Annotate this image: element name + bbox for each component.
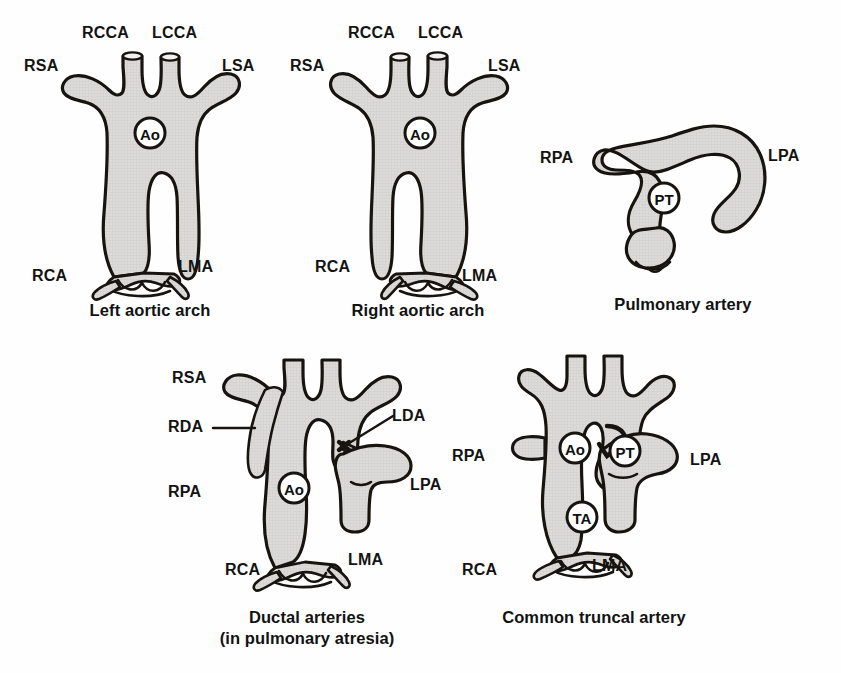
figure-4-center-tag: Ao bbox=[279, 473, 309, 503]
caption-pulmonary-artery: Pulmonary artery bbox=[578, 294, 788, 315]
tag-label-ao: Ao bbox=[565, 441, 585, 458]
label-lpa-fig4: LPA bbox=[410, 477, 441, 493]
tag-label-ta: TA bbox=[573, 510, 592, 527]
label-lcca-fig2: LCCA bbox=[418, 25, 463, 41]
figure-5-tag-pt: PT bbox=[610, 436, 640, 466]
caption-common-truncal-artery: Common truncal artery bbox=[460, 607, 728, 628]
label-rpa-fig5: RPA bbox=[452, 448, 485, 464]
tag-label-ao: Ao bbox=[410, 126, 430, 143]
label-lma-fig4: LMA bbox=[348, 552, 383, 568]
lda-marker bbox=[339, 442, 349, 450]
label-lma-fig1: LMA bbox=[178, 259, 213, 275]
caption-line-2: (in pulmonary atresia) bbox=[182, 628, 432, 649]
tag-label-pt: PT bbox=[654, 191, 673, 208]
label-rsa-fig1: RSA bbox=[24, 58, 58, 74]
label-lma-fig2: LMA bbox=[462, 268, 497, 284]
label-rpa-fig4: RPA bbox=[168, 484, 201, 500]
label-lsa-fig1: LSA bbox=[222, 58, 255, 74]
figure-common-truncal-artery: Ao PT TA bbox=[495, 352, 710, 592]
label-rsa-fig4: RSA bbox=[172, 370, 206, 386]
label-rpa-fig3: RPA bbox=[540, 150, 573, 166]
label-lpa-fig3: LPA bbox=[768, 148, 799, 164]
caption-ductal-arteries: Ductal arteries (in pulmonary atresia) bbox=[182, 607, 432, 650]
label-lma-fig5: LMA bbox=[592, 558, 627, 574]
figure-1-center-tag: Ao bbox=[135, 118, 165, 148]
diagram-plate: Ao RCCA LCCA RSA LSA RCA LMA Left aortic… bbox=[0, 0, 841, 673]
tag-label-ao: Ao bbox=[140, 126, 160, 143]
label-rca-fig2: RCA bbox=[315, 259, 350, 275]
figure-left-aortic-arch: Ao bbox=[52, 45, 252, 290]
tag-label-pt: PT bbox=[615, 444, 634, 461]
figure-2-center-tag: Ao bbox=[405, 118, 435, 148]
label-rsa-fig2: RSA bbox=[290, 58, 324, 74]
figure-5-tag-ta: TA bbox=[567, 502, 597, 532]
label-lsa-fig2: LSA bbox=[488, 58, 521, 74]
figure-3-center-tag: PT bbox=[649, 183, 679, 213]
label-rca-fig4: RCA bbox=[225, 562, 260, 578]
figure-ductal-arteries: Ao bbox=[215, 358, 435, 593]
label-rda-fig4: RDA bbox=[168, 419, 203, 435]
label-rca-fig1: RCA bbox=[32, 268, 67, 284]
label-lcca-fig1: LCCA bbox=[152, 25, 197, 41]
label-rcca-fig2: RCCA bbox=[348, 25, 395, 41]
label-rcca-fig1: RCCA bbox=[82, 25, 129, 41]
figure-right-aortic-arch: Ao bbox=[318, 45, 518, 290]
label-lpa-fig5: LPA bbox=[690, 452, 721, 468]
label-lda-fig4: LDA bbox=[392, 408, 425, 424]
figure-pulmonary-artery: PT bbox=[588, 120, 788, 280]
caption-left-aortic-arch: Left aortic arch bbox=[50, 300, 250, 321]
caption-right-aortic-arch: Right aortic arch bbox=[316, 300, 520, 321]
tag-label-ao: Ao bbox=[284, 481, 304, 498]
caption-line-1: Ductal arteries bbox=[182, 607, 432, 628]
figure-5-tag-ao: Ao bbox=[560, 433, 590, 463]
label-rca-fig5: RCA bbox=[462, 562, 497, 578]
